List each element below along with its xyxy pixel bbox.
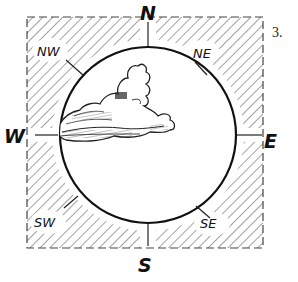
- label-southeast: SE: [200, 216, 217, 231]
- label-southwest: SW: [34, 215, 56, 230]
- label-northeast: NE: [193, 46, 212, 61]
- label-south: S: [138, 254, 152, 276]
- label-east: E: [264, 130, 277, 152]
- label-north: N: [140, 2, 156, 24]
- figure-number: 3.: [272, 25, 283, 40]
- sky-compass-diagram: N W E S NW NE SW SE 3.: [0, 0, 298, 282]
- label-northwest: NW: [37, 44, 61, 59]
- label-west: W: [4, 125, 26, 147]
